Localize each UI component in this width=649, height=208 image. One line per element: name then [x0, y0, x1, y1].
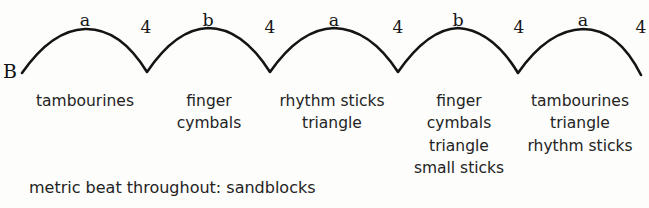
beat-count-3: 4: [378, 19, 418, 36]
instrument-group-5: tambourines triangle rhythm sticks: [480, 90, 649, 157]
instrument-line: tambourines: [480, 90, 649, 112]
arc-letter-1: a: [65, 12, 105, 30]
beat-count-5: 4: [621, 19, 649, 36]
arc-path: [22, 28, 641, 75]
arc-letter-2: b: [188, 12, 228, 30]
arc-letter-5: a: [563, 12, 603, 30]
beat-count-4: 4: [499, 19, 539, 36]
phrase-arc-diagram: B a b a b a 4 4 4 4 4 tambourines finger…: [0, 0, 649, 208]
instrument-line: triangle: [480, 112, 649, 134]
beat-count-2: 4: [250, 19, 290, 36]
metric-beat-note: metric beat throughout: sandblocks: [29, 178, 316, 197]
arc-letter-3: a: [314, 12, 354, 30]
beat-count-1: 4: [126, 19, 166, 36]
section-label-b: B: [3, 62, 17, 81]
instrument-line: rhythm sticks: [480, 135, 649, 157]
instrument-line: small sticks: [359, 157, 559, 179]
arc-letter-4: b: [438, 12, 478, 30]
